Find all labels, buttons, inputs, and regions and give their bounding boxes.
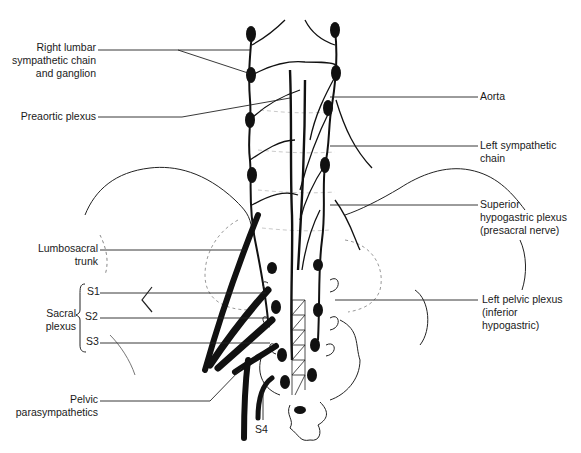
label-line: Pelvic bbox=[16, 393, 98, 406]
ganglion-l2 bbox=[331, 65, 341, 81]
sacral-wing-left bbox=[345, 240, 381, 312]
label-right-lumbar: Right lumbar sympathetic chain and gangl… bbox=[12, 41, 96, 80]
ganglion-l3 bbox=[323, 100, 333, 116]
right-iliac-crest-low bbox=[110, 335, 135, 375]
label-superior-hypogastric: Superior hypogastric plexus (presacral n… bbox=[480, 198, 567, 237]
label-line: Superior bbox=[480, 198, 567, 211]
ganglion-r4 bbox=[247, 167, 257, 183]
label-line: Lumbosacral bbox=[38, 242, 98, 255]
ganglion-r1 bbox=[246, 26, 256, 42]
ganglion-l1 bbox=[330, 22, 340, 38]
label-line: Left sympathetic bbox=[480, 139, 556, 152]
label-line: (presacral nerve) bbox=[480, 224, 567, 237]
label-line: trunk bbox=[38, 255, 98, 268]
label-aorta: Aorta bbox=[480, 90, 505, 103]
label-preaortic: Preaortic plexus bbox=[21, 110, 96, 123]
sacrum-left-edge bbox=[330, 320, 360, 400]
label-s2: S2 bbox=[85, 310, 98, 323]
label-line: Left pelvic plexus bbox=[482, 293, 563, 306]
left-iliac-inner bbox=[520, 240, 526, 290]
label-left-sympathetic-chain: Left sympathetic chain bbox=[480, 139, 556, 165]
sacral-notch bbox=[142, 287, 152, 312]
label-s1: S1 bbox=[87, 285, 100, 298]
label-s4: S4 bbox=[255, 423, 268, 436]
label-line: and ganglion bbox=[12, 67, 96, 80]
label-pelvic-parasympathetics: Pelvic parasympathetics bbox=[16, 393, 98, 419]
label-line: parasympathetics bbox=[16, 406, 98, 419]
label-line: sympathetic chain bbox=[12, 54, 96, 67]
label-line: hypogastric plexus bbox=[480, 211, 567, 224]
label-line: Right lumbar bbox=[12, 41, 96, 54]
ganglion-l4 bbox=[320, 157, 330, 173]
label-line: chain bbox=[480, 152, 556, 165]
right-iliac-inner bbox=[100, 235, 107, 275]
label-s3: S3 bbox=[86, 335, 99, 348]
label-line: hypogastric) bbox=[482, 319, 563, 332]
label-sacral-plexus: Sacral plexus bbox=[46, 307, 76, 333]
label-line: plexus bbox=[46, 320, 76, 333]
right-iliac-outline bbox=[85, 167, 252, 230]
coccyx bbox=[289, 402, 327, 440]
label-line: (inferior bbox=[482, 306, 563, 319]
label-line: Sacral bbox=[46, 307, 76, 320]
label-lumbosacral: Lumbosacral trunk bbox=[38, 242, 98, 268]
ganglion-r3 bbox=[245, 112, 255, 128]
ganglion-r2 bbox=[246, 67, 256, 83]
lumbosacral-trunk bbox=[205, 215, 258, 370]
label-left-pelvic-plexus: Left pelvic plexus (inferior hypogastric… bbox=[482, 293, 563, 332]
left-gluteal-line bbox=[415, 290, 428, 345]
